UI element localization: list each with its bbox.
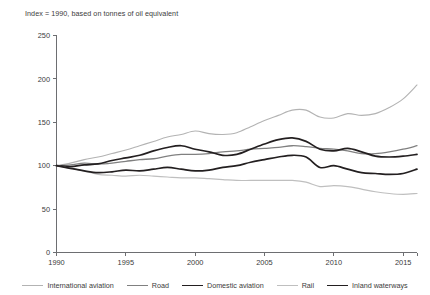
- line-chart-figure: Index = 1990, based on tonnes of oil equ…: [0, 0, 430, 295]
- y-tick-label: 150: [38, 118, 50, 127]
- legend-item-label: Road: [152, 281, 169, 290]
- legend-item-label: Inland waterways: [352, 281, 408, 290]
- series-line: [57, 146, 418, 166]
- legend-line-swatch: [277, 285, 298, 286]
- chart-legend: International aviationRoadDomestic aviat…: [0, 278, 430, 292]
- y-tick-label: 100: [38, 161, 50, 170]
- legend-item[interactable]: Road: [127, 281, 169, 290]
- legend-item[interactable]: Rail: [277, 281, 314, 290]
- x-axis: 199019952000200520102015: [48, 253, 417, 268]
- legend-item[interactable]: Domestic aviation: [182, 281, 264, 290]
- legend-line-swatch: [182, 285, 203, 286]
- series-lines: [57, 85, 418, 194]
- x-tick-label: 1990: [48, 258, 64, 267]
- legend-line-swatch: [127, 285, 148, 286]
- y-tick-label: 50: [42, 205, 50, 214]
- y-axis: 050100150200250: [38, 31, 57, 257]
- y-tick-label: 0: [46, 248, 50, 257]
- series-line: [57, 155, 418, 174]
- legend-item-label: International aviation: [47, 281, 113, 290]
- y-tick-label: 200: [38, 75, 50, 84]
- legend-line-swatch: [22, 285, 43, 286]
- x-tick-label: 2010: [326, 258, 342, 267]
- legend-item[interactable]: Inland waterways: [327, 281, 408, 290]
- x-tick-label: 2000: [187, 258, 203, 267]
- legend-item-label: Rail: [302, 281, 314, 290]
- x-tick-label: 2015: [395, 258, 411, 267]
- chart-plot-area: 050100150200250 199019952000200520102015: [0, 0, 430, 270]
- x-tick-label: 1995: [118, 258, 134, 267]
- x-tick-label: 2005: [256, 258, 272, 267]
- legend-item-label: Domestic aviation: [207, 281, 264, 290]
- legend-item[interactable]: International aviation: [22, 281, 113, 290]
- series-line: [57, 138, 418, 167]
- legend-line-swatch: [327, 285, 348, 286]
- series-line: [57, 166, 418, 195]
- y-tick-label: 250: [38, 31, 50, 40]
- chart-subtitle: Index = 1990, based on tonnes of oil equ…: [25, 9, 178, 18]
